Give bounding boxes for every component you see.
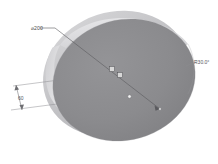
cad-viewport: ⌀200 60 R30.0° (0, 0, 218, 164)
diameter-label: ⌀200 (31, 25, 43, 31)
thickness-ext-lower (11, 104, 57, 110)
angle-label: R30.0° (194, 59, 209, 65)
thickness-arrow-bottom (20, 105, 25, 111)
edge-endpoint-dot[interactable] (159, 108, 161, 110)
center-point-dot[interactable] (128, 95, 131, 98)
cylinder-body (26, 0, 209, 158)
cad-drawing-canvas: ⌀200 60 R30.0° (0, 0, 218, 164)
vertex-marker-b[interactable] (118, 73, 123, 78)
thickness-label: 60 (18, 95, 24, 101)
vertex-marker-a[interactable] (110, 67, 115, 72)
front-face (38, 2, 209, 157)
